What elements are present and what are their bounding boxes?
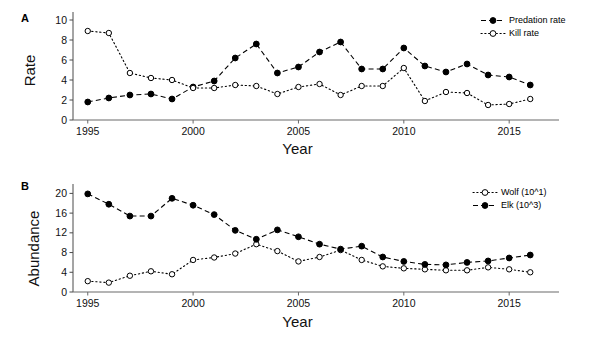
y-tick-label: 8 <box>61 34 67 46</box>
data-point <box>380 83 385 88</box>
data-point <box>148 213 154 219</box>
panel-b-series <box>85 191 533 285</box>
data-point <box>127 273 132 278</box>
panel-a-legend: Predation rate Kill rate <box>480 14 566 40</box>
legend-item-predation-rate: Predation rate <box>480 14 566 27</box>
data-point <box>296 234 302 240</box>
data-point <box>85 28 90 33</box>
data-point <box>253 236 259 242</box>
data-point <box>443 89 448 94</box>
y-tick-label: 16 <box>55 207 67 219</box>
panel-a: A Rate Year 024681019952000200520102015 … <box>0 0 595 168</box>
panel-a-series <box>85 28 533 107</box>
y-tick-label: 10 <box>55 14 67 26</box>
data-point <box>169 77 174 82</box>
data-point <box>106 30 111 35</box>
data-point <box>464 61 470 67</box>
data-point <box>485 265 490 270</box>
y-tick-label: 0 <box>61 286 67 298</box>
data-point <box>380 254 386 260</box>
data-point <box>317 254 322 259</box>
data-point <box>254 83 259 88</box>
data-point <box>528 270 533 275</box>
data-point <box>296 64 302 70</box>
legend-label-predation-rate: Predation rate <box>509 14 566 27</box>
x-tick-label: 2010 <box>392 125 416 137</box>
series-line <box>88 194 531 265</box>
filled-circle-dashed-key <box>472 200 498 211</box>
data-point <box>127 70 132 75</box>
data-point <box>506 267 511 272</box>
data-point <box>506 255 512 261</box>
data-point <box>148 269 153 274</box>
legend-item-kill-rate: Kill rate <box>480 27 566 40</box>
data-point <box>338 246 344 252</box>
data-point <box>127 213 133 219</box>
data-point <box>338 39 344 45</box>
figure-container: A Rate Year 024681019952000200520102015 … <box>0 0 595 342</box>
legend-item-elk: Elk (10^3) <box>472 199 547 212</box>
data-point <box>443 268 448 273</box>
data-point <box>232 227 238 233</box>
legend-label-elk: Elk (10^3) <box>501 199 541 212</box>
filled-circle-dashed-key <box>480 15 506 26</box>
data-point <box>359 83 364 88</box>
y-tick-label: 8 <box>61 246 67 258</box>
data-point <box>380 264 385 269</box>
data-point <box>211 255 216 260</box>
data-point <box>190 85 195 90</box>
x-tick-label: 2005 <box>287 125 311 137</box>
open-circle-dotted-key <box>480 28 506 39</box>
data-point <box>359 66 365 72</box>
data-point <box>233 82 238 87</box>
data-point <box>275 91 280 96</box>
data-point <box>527 252 533 258</box>
data-point <box>296 84 301 89</box>
legend-label-wolf: Wolf (10^1) <box>501 186 547 199</box>
y-tick-label: 4 <box>61 266 67 278</box>
data-point <box>422 98 427 103</box>
data-point <box>443 69 449 75</box>
y-tick-label: 0 <box>61 114 67 126</box>
data-point <box>317 49 323 55</box>
x-tick-label: 2015 <box>497 297 521 309</box>
data-point <box>506 74 512 80</box>
data-point <box>443 262 449 268</box>
data-point <box>401 259 407 265</box>
panel-b-x-axis-label: Year <box>0 313 595 330</box>
data-point <box>106 280 111 285</box>
data-point <box>296 259 301 264</box>
data-point <box>85 99 91 105</box>
data-point <box>338 92 343 97</box>
data-point <box>359 243 365 249</box>
data-point <box>485 102 490 107</box>
data-point <box>317 241 323 247</box>
data-point <box>253 41 259 47</box>
data-point <box>169 272 174 277</box>
data-point <box>106 95 112 101</box>
data-point <box>85 191 91 197</box>
data-point <box>211 78 217 84</box>
x-tick-label: 1995 <box>76 297 100 309</box>
data-point <box>85 278 90 283</box>
panel-a-x-axis-label: Year <box>0 140 595 157</box>
data-point <box>528 96 533 101</box>
data-point <box>317 81 322 86</box>
data-point <box>401 65 406 70</box>
data-point <box>359 257 364 262</box>
data-point <box>233 251 238 256</box>
data-point <box>232 55 238 61</box>
data-point <box>464 260 470 266</box>
data-point <box>527 82 533 88</box>
data-point <box>506 101 511 106</box>
data-point <box>274 227 280 233</box>
data-point <box>485 72 491 78</box>
x-tick-label: 2000 <box>181 125 205 137</box>
x-tick-label: 2000 <box>181 297 205 309</box>
legend-item-wolf: Wolf (10^1) <box>472 186 547 199</box>
data-point <box>422 63 428 69</box>
data-point <box>211 212 217 218</box>
x-tick-label: 2010 <box>392 297 416 309</box>
y-tick-label: 12 <box>55 226 67 238</box>
data-point <box>169 195 175 201</box>
